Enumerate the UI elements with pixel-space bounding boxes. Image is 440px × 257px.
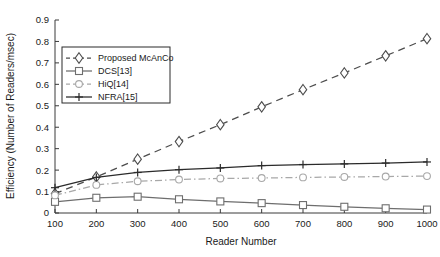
data-point-marker: [176, 176, 183, 183]
legend-label: Proposed McAnCo: [98, 53, 174, 63]
data-point-marker: [424, 173, 431, 180]
chart-legend: Proposed McAnCoDCS[13]HiQ[14]NFRA[15]: [62, 47, 174, 103]
chart-figure: 00.10.20.30.40.50.60.70.80.9 10020030040…: [0, 0, 440, 257]
x-tick-label: 200: [88, 218, 104, 229]
x-tick-label: 600: [254, 218, 270, 229]
data-point-marker: [134, 193, 141, 200]
x-tick-label: 300: [130, 218, 146, 229]
data-point-marker: [93, 182, 100, 189]
y-tick-label: 0.3: [36, 143, 49, 154]
y-tick-label: 0.6: [36, 79, 49, 90]
x-tick-label: 800: [336, 218, 352, 229]
x-tick-label: 500: [212, 218, 228, 229]
x-tick-label: 900: [378, 218, 394, 229]
data-point-marker: [176, 196, 183, 203]
data-point-marker: [217, 175, 224, 182]
y-tick-label: 0: [44, 207, 49, 218]
legend-label: HiQ[14]: [98, 79, 129, 89]
data-point-marker: [300, 202, 307, 209]
line-chart-svg: 00.10.20.30.40.50.60.70.80.9 10020030040…: [0, 0, 440, 257]
data-point-marker: [341, 203, 348, 210]
y-tick-label: 0.2: [36, 165, 49, 176]
x-axis-title: Reader Number: [205, 236, 277, 247]
data-point-marker: [217, 198, 224, 205]
y-tick-label: 0.1: [36, 186, 49, 197]
legend-marker-icon: [76, 68, 83, 75]
data-point-marker: [52, 198, 59, 205]
legend-label: NFRA[15]: [98, 92, 138, 102]
x-tick-label: 1000: [416, 218, 437, 229]
data-point-marker: [382, 205, 389, 212]
data-point-marker: [258, 175, 265, 182]
y-tick-label: 0.9: [36, 14, 49, 25]
legend-marker-icon: [76, 81, 83, 88]
legend-label: DCS[13]: [98, 66, 132, 76]
data-point-marker: [382, 173, 389, 180]
data-point-marker: [424, 206, 431, 213]
y-tick-label: 0.5: [36, 100, 49, 111]
data-point-marker: [300, 174, 307, 181]
y-tick-label: 0.7: [36, 57, 49, 68]
x-tick-label: 400: [171, 218, 187, 229]
data-point-marker: [52, 192, 59, 199]
data-point-marker: [341, 174, 348, 181]
y-axis-title: Efficiency (Number of Readers/msec): [5, 33, 16, 199]
x-tick-label: 100: [47, 218, 63, 229]
data-point-marker: [134, 178, 141, 185]
x-tick-label: 700: [295, 218, 311, 229]
y-tick-label: 0.4: [36, 122, 49, 133]
data-point-marker: [93, 194, 100, 201]
data-point-marker: [258, 200, 265, 207]
y-tick-label: 0.8: [36, 36, 49, 47]
